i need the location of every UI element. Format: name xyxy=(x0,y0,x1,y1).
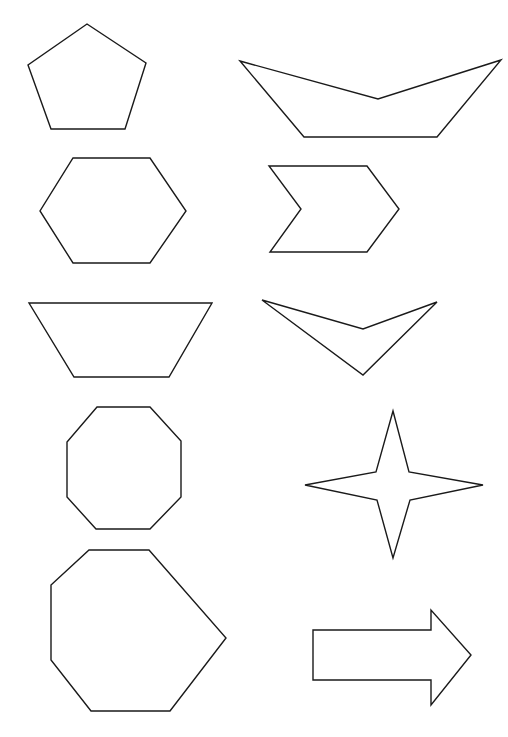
shapes-canvas xyxy=(0,0,508,737)
octagon-shape xyxy=(67,407,181,529)
